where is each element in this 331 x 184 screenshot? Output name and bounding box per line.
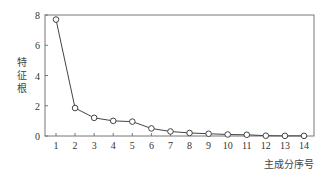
data-point-marker <box>91 115 97 121</box>
x-tick-label: 13 <box>280 140 290 151</box>
series-line <box>53 17 307 139</box>
x-tick-label: 1 <box>54 140 59 151</box>
y-axis-title-char: 特 <box>17 57 27 68</box>
x-axis-title: 主成分序号 <box>264 158 314 170</box>
data-point-marker <box>263 133 269 139</box>
x-tick-label: 12 <box>261 140 271 151</box>
scree-plot: 02468 1234567891011121314 特征根 主成分序号 <box>0 0 331 184</box>
plot-frame <box>45 15 314 136</box>
data-point-marker <box>110 118 116 124</box>
x-tick-label: 14 <box>299 140 309 151</box>
y-axis-title-char: 根 <box>17 82 27 94</box>
data-point-marker <box>225 132 231 138</box>
y-tick-label: 6 <box>35 40 40 51</box>
data-point-marker <box>187 130 193 136</box>
y-axis-title: 特征根 <box>17 57 27 94</box>
data-point-marker <box>244 132 250 138</box>
x-tick-label: 6 <box>149 140 154 151</box>
y-tick-label: 8 <box>35 10 40 21</box>
data-point-marker <box>149 126 155 132</box>
x-tick-label: 9 <box>206 140 211 151</box>
y-axis: 02468 <box>35 10 48 142</box>
y-axis-title-char: 征 <box>17 70 27 81</box>
y-tick-label: 4 <box>35 71 40 82</box>
data-point-marker <box>168 129 174 135</box>
x-tick-label: 4 <box>111 140 116 151</box>
x-tick-label: 10 <box>223 140 233 151</box>
y-tick-label: 2 <box>35 101 40 112</box>
x-tick-label: 3 <box>92 140 97 151</box>
data-point-marker <box>301 133 307 139</box>
x-tick-label: 8 <box>187 140 192 151</box>
data-point-marker <box>130 119 136 125</box>
data-point-marker <box>206 131 212 137</box>
x-tick-label: 5 <box>130 140 135 151</box>
x-tick-label: 2 <box>73 140 78 151</box>
data-point-marker <box>53 17 59 23</box>
data-point-marker <box>72 105 78 111</box>
x-tick-label: 11 <box>242 140 252 151</box>
y-tick-label: 0 <box>35 131 40 142</box>
x-tick-label: 7 <box>168 140 173 151</box>
data-point-marker <box>282 133 288 139</box>
